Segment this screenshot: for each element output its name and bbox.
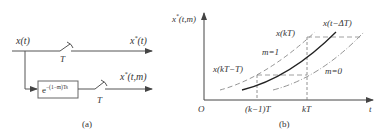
branch-line bbox=[25, 51, 37, 89]
tick-label-k-minus-1-T: (k−1)T bbox=[245, 104, 272, 114]
y-axis-label: x*(t,m) bbox=[171, 13, 196, 24]
output-top-label: x*(t) bbox=[129, 35, 148, 47]
sampler-switch-bottom bbox=[95, 80, 107, 89]
origin-label: O bbox=[198, 104, 205, 114]
switch-bottom-period-label: T bbox=[97, 95, 103, 105]
switch-top-period-label: T bbox=[60, 54, 66, 64]
input-label: x(t) bbox=[15, 35, 31, 47]
output-bottom-label: x*(t,m) bbox=[119, 71, 147, 83]
label-x-kT: x(kT) bbox=[275, 28, 295, 38]
x-axis-label: t bbox=[369, 104, 372, 114]
curve-m0 bbox=[273, 32, 364, 90]
sampler-switch-top bbox=[60, 42, 73, 51]
label-m1: m=1 bbox=[262, 47, 279, 57]
panel-a-caption: (a) bbox=[82, 119, 92, 129]
label-x-t-minus-dT: x(t−ΔT) bbox=[322, 18, 352, 28]
label-m0: m=0 bbox=[325, 66, 343, 76]
diagram-canvas: x(t) T x*(t) e−(1−m)Ts T x*(t,m) bbox=[0, 0, 382, 137]
panel-b-caption: (b) bbox=[279, 119, 290, 129]
tick-label-kT: kT bbox=[302, 104, 312, 114]
panel-b: x*(t,m) O (k−1)T kT t x(kT) x(t−ΔT) x(kT… bbox=[171, 13, 373, 129]
panel-a: x(t) T x*(t) e−(1−m)Ts T x*(t,m) bbox=[12, 35, 152, 129]
curve-x-t-minus-dT bbox=[242, 32, 336, 90]
label-x-kT-minus-T: x(kT−T) bbox=[212, 64, 243, 74]
